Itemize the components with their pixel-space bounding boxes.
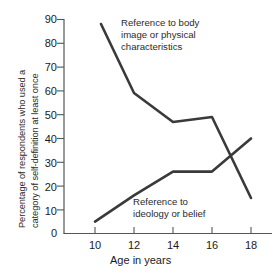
annotation-ideology-line-2: ideology or belief xyxy=(133,208,206,220)
annotation-body-image-line-1: Reference to body xyxy=(121,17,199,29)
chart-figure: Percentage of respondents who used a cat… xyxy=(0,0,278,278)
annotation-body-image: Reference to body image or physical char… xyxy=(121,17,199,54)
annotation-body-image-line-3: characteristics xyxy=(121,41,199,53)
annotation-ideology-line-1: Reference to xyxy=(133,196,206,208)
x-tick-marks xyxy=(95,227,251,234)
y-tick-marks xyxy=(57,20,64,210)
annotation-body-image-line-2: image or physical xyxy=(121,29,199,41)
annotation-ideology: Reference to ideology or belief xyxy=(133,196,206,220)
